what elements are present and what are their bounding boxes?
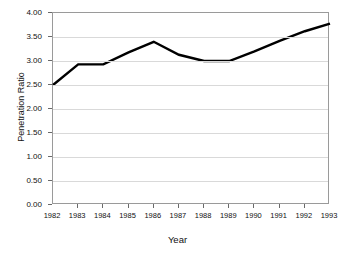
x-tick-label: 1990 bbox=[245, 211, 262, 220]
y-tick-label: 3.50 bbox=[26, 32, 42, 41]
line-chart: Penetration Ratio 0.000.501.001.502.002.… bbox=[0, 0, 355, 259]
x-tick-label: 1984 bbox=[94, 211, 111, 220]
gridline bbox=[53, 61, 328, 62]
gridline bbox=[53, 109, 328, 110]
gridline bbox=[53, 157, 328, 158]
x-tick-mark bbox=[77, 204, 78, 208]
x-axis-ticks: 1982198319841985198619871988198919901991… bbox=[52, 204, 329, 224]
x-tick-label: 1993 bbox=[321, 211, 338, 220]
x-tick-mark bbox=[203, 204, 204, 208]
x-tick-label: 1985 bbox=[119, 211, 136, 220]
x-tick-label: 1983 bbox=[69, 211, 86, 220]
x-axis-title: Year bbox=[0, 234, 355, 245]
x-tick-mark bbox=[228, 204, 229, 208]
x-tick-label: 1986 bbox=[144, 211, 161, 220]
y-tick-label: 0.00 bbox=[26, 200, 42, 209]
x-tick-label: 1982 bbox=[44, 211, 61, 220]
gridline bbox=[53, 37, 328, 38]
x-tick-label: 1988 bbox=[195, 211, 212, 220]
plot-area bbox=[52, 12, 329, 204]
x-tick-label: 1989 bbox=[220, 211, 237, 220]
y-tick-label: 2.50 bbox=[26, 80, 42, 89]
x-tick-mark bbox=[128, 204, 129, 208]
y-tick-label: 1.50 bbox=[26, 128, 42, 137]
x-tick-mark bbox=[153, 204, 154, 208]
x-tick-mark bbox=[253, 204, 254, 208]
x-tick-mark bbox=[178, 204, 179, 208]
gridline bbox=[53, 181, 328, 182]
x-tick-mark bbox=[279, 204, 280, 208]
y-tick-label: 1.00 bbox=[26, 152, 42, 161]
y-tick-label: 2.00 bbox=[26, 104, 42, 113]
x-tick-mark bbox=[304, 204, 305, 208]
y-tick-label: 4.00 bbox=[26, 8, 42, 17]
series-polyline bbox=[53, 24, 330, 85]
gridline bbox=[53, 85, 328, 86]
y-tick-label: 3.00 bbox=[26, 56, 42, 65]
y-tick-label: 0.50 bbox=[26, 176, 42, 185]
gridline bbox=[53, 133, 328, 134]
y-axis-ticks: 0.000.501.001.502.002.503.003.504.00 bbox=[0, 12, 52, 204]
x-tick-label: 1991 bbox=[270, 211, 287, 220]
x-tick-label: 1987 bbox=[170, 211, 187, 220]
x-tick-mark bbox=[102, 204, 103, 208]
x-tick-label: 1992 bbox=[295, 211, 312, 220]
